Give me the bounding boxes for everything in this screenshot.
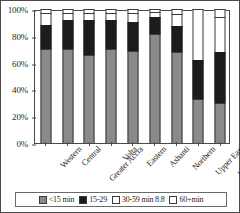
bar-group <box>57 11 79 143</box>
x-axis-tick-label: Central <box>79 144 103 168</box>
bar-segment <box>40 49 51 143</box>
bar-segment <box>171 26 182 51</box>
bar-segment <box>171 52 182 143</box>
bar-segment <box>215 9 226 17</box>
bar-segment <box>84 13 95 20</box>
stacked-bar <box>106 9 117 143</box>
y-axis-tick-label: 40% <box>12 85 28 95</box>
bar-segment <box>215 103 226 143</box>
y-axis-tick-label: 80% <box>12 32 28 42</box>
bar-group <box>122 11 144 143</box>
legend-swatch <box>39 196 47 204</box>
bar-segment <box>149 34 160 143</box>
y-axis-tick-mark <box>32 11 36 12</box>
legend-swatch <box>112 196 120 204</box>
y-axis-tick-label: 60% <box>12 59 28 69</box>
x-axis-tick-label: Eastern <box>144 144 168 168</box>
bar-group <box>35 11 57 143</box>
legend-label: <15 min <box>49 195 75 204</box>
stacked-bar <box>40 9 51 143</box>
x-axis: WesternCentralGreater AccraVoltaEasternA… <box>34 144 230 190</box>
bar-segment <box>62 20 73 49</box>
bar-segment <box>193 60 204 99</box>
legend-label: 30-59 min 8.8 <box>122 195 165 204</box>
legend-swatch <box>169 196 177 204</box>
bar-segment <box>106 20 117 49</box>
y-axis-tick-mark <box>32 64 36 65</box>
bar-segment <box>62 13 73 20</box>
bar-segment <box>127 22 138 50</box>
stacked-bar <box>127 9 138 143</box>
stacked-bar <box>171 9 182 143</box>
y-axis-tick-label: 20% <box>12 112 28 122</box>
legend-label: 60+min <box>179 195 203 204</box>
stacked-bar <box>62 9 73 143</box>
legend-item: 15-29 <box>79 195 107 204</box>
y-axis-tick-label: 0% <box>16 139 28 149</box>
stacked-bar <box>84 9 95 143</box>
chart-figure: 0%20%40%60%80%100% WesternCentralGreater… <box>0 0 240 213</box>
legend-item: 60+min <box>169 195 203 204</box>
bar-segment <box>193 99 204 143</box>
bar-segment <box>215 17 226 52</box>
bar-group <box>166 11 188 143</box>
y-axis-tick-mark <box>32 37 36 38</box>
bar-group <box>209 11 231 143</box>
y-axis-tick-label: 100% <box>8 5 28 15</box>
bar-segment <box>127 13 138 22</box>
chart-legend: <15 min15-2930-59 min 8.860+min <box>15 192 227 207</box>
y-axis-tick-mark <box>32 118 36 119</box>
y-axis-tick-mark <box>32 91 36 92</box>
x-axis-tick-label: Northern <box>189 144 216 172</box>
plot-frame <box>34 10 230 144</box>
x-axis-tick-label: Western <box>58 144 83 170</box>
legend-item: 30-59 min 8.8 <box>112 195 165 204</box>
stacked-bar <box>193 9 204 143</box>
bar-segment <box>106 13 117 20</box>
plot-area <box>35 11 229 143</box>
bar-segment <box>62 49 73 143</box>
bar-segment <box>40 13 51 25</box>
x-axis-tick-label: Ashanti <box>166 144 191 169</box>
legend-item: <15 min <box>39 195 75 204</box>
y-axis: 0%20%40%60%80%100% <box>1 10 32 144</box>
bar-segment <box>106 49 117 143</box>
bar-segment <box>84 20 95 55</box>
bar-group <box>79 11 101 143</box>
bar-group <box>144 11 166 143</box>
bar-segment <box>193 9 204 60</box>
bar-group <box>100 11 122 143</box>
bar-group <box>187 11 209 143</box>
bar-segment <box>40 25 51 49</box>
bar-segment <box>149 17 160 34</box>
bar-segment <box>84 55 95 143</box>
bar-segment <box>127 51 138 143</box>
legend-label: 15-29 <box>89 195 107 204</box>
bar-segment <box>171 14 182 26</box>
bar-segment <box>215 52 226 103</box>
stacked-bar <box>215 9 226 143</box>
stacked-bar <box>149 9 160 143</box>
legend-swatch <box>79 196 87 204</box>
